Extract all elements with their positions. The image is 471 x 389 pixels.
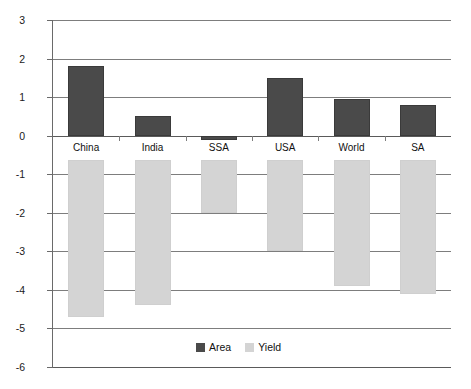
bar-area-china <box>68 66 104 135</box>
y-tick-label: -2 <box>0 207 25 219</box>
gridline-3 <box>53 20 451 21</box>
y-tick-label: -6 <box>0 361 25 373</box>
gridline--1 <box>53 174 451 175</box>
y-tick-mark <box>47 174 53 175</box>
legend-swatch-area-icon <box>196 343 205 352</box>
category-label-sa: SA <box>388 142 448 153</box>
gridline--6 <box>53 367 451 368</box>
legend-entry-yield: Yield <box>245 341 281 353</box>
y-tick-label: -1 <box>0 168 25 180</box>
bar-area-usa <box>267 78 303 136</box>
bar-yield-sa <box>400 160 436 294</box>
category-label-china: China <box>56 142 116 153</box>
y-tick-mark <box>47 97 53 98</box>
y-tick-label: 1 <box>0 91 25 103</box>
y-tick-mark <box>47 213 53 214</box>
bar-chart: % change from baseline trend 3210-1-2-3-… <box>0 0 471 389</box>
bar-area-world <box>334 99 370 136</box>
gridline--3 <box>53 251 451 252</box>
category-separator-tick <box>186 136 187 141</box>
chart-legend: Area Yield <box>196 341 281 353</box>
y-tick-label: 2 <box>0 53 25 65</box>
bar-yield-china <box>68 160 104 317</box>
category-separator-tick <box>252 136 253 141</box>
legend-label-yield: Yield <box>258 341 281 353</box>
y-tick-label: -5 <box>0 322 25 334</box>
gridline-2 <box>53 59 451 60</box>
legend-label-area: Area <box>209 341 231 353</box>
y-tick-label: -3 <box>0 245 25 257</box>
bar-area-india <box>135 116 171 135</box>
y-tick-label: -4 <box>0 284 25 296</box>
plot-area: 3210-1-2-3-4-5-6ChinaIndiaSSAUSAWorldSA <box>52 20 450 367</box>
legend-entry-area: Area <box>196 341 231 353</box>
bar-yield-world <box>334 160 370 286</box>
category-separator-tick <box>385 136 386 141</box>
legend-swatch-yield-icon <box>245 343 254 352</box>
gridline-1 <box>53 97 451 98</box>
bar-yield-ssa <box>201 160 237 213</box>
bar-area-sa <box>400 105 436 136</box>
category-label-india: India <box>123 142 183 153</box>
y-tick-label: 3 <box>0 14 25 26</box>
y-tick-mark <box>47 367 53 368</box>
category-separator-tick <box>318 136 319 141</box>
bar-area-ssa <box>201 136 237 140</box>
category-separator-tick <box>119 136 120 141</box>
gridline--4 <box>53 290 451 291</box>
gridline--2 <box>53 213 451 214</box>
gridline--5 <box>53 328 451 329</box>
y-tick-mark <box>47 290 53 291</box>
y-tick-mark <box>47 328 53 329</box>
y-tick-mark <box>47 59 53 60</box>
bar-yield-usa <box>267 160 303 252</box>
category-label-usa: USA <box>255 142 315 153</box>
category-label-ssa: SSA <box>189 142 249 153</box>
bar-yield-india <box>135 160 171 306</box>
category-label-world: World <box>322 142 382 153</box>
y-tick-mark <box>47 251 53 252</box>
y-tick-mark <box>47 20 53 21</box>
y-tick-label: 0 <box>0 130 25 142</box>
y-tick-mark <box>47 136 53 137</box>
